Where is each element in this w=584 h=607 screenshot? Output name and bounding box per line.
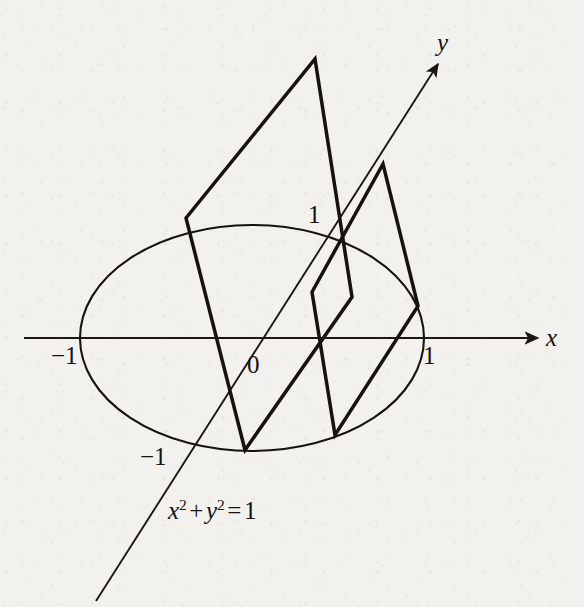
curve-equation-label: x2+y2=1 xyxy=(168,497,256,523)
tick-label-y-negative-one: −1 xyxy=(140,444,167,469)
equation-rhs: 1 xyxy=(244,497,257,524)
x-axis-label: x xyxy=(546,325,557,350)
tick-label-x-positive-one: 1 xyxy=(423,343,436,368)
equation-var-y: y xyxy=(206,497,217,524)
y-axis-line xyxy=(96,64,438,601)
tick-label-origin: 0 xyxy=(247,352,260,377)
equation-equals: = xyxy=(225,497,244,524)
figure-root: x y −1 1 0 1 −1 x2+y2=1 xyxy=(0,0,584,607)
tick-label-x-negative-one: −1 xyxy=(51,343,78,368)
equation-var-x: x xyxy=(168,497,179,524)
equation-plus: + xyxy=(187,497,206,524)
y-axis-label: y xyxy=(437,30,448,55)
equation-exponent-y: 2 xyxy=(217,496,225,513)
equation-exponent-x: 2 xyxy=(179,496,187,513)
tick-label-y-positive-one: 1 xyxy=(308,202,321,227)
geometry-diagram xyxy=(0,0,584,607)
